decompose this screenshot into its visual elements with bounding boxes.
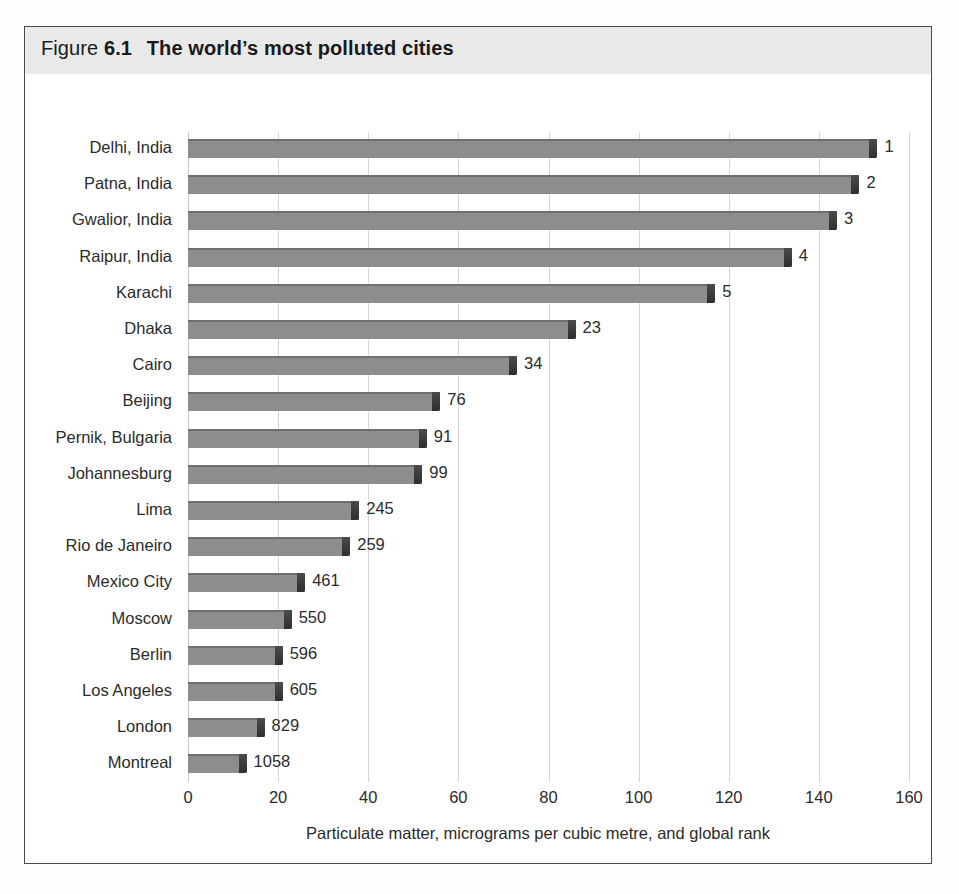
bar-rank-label: 23 — [583, 318, 601, 337]
bar-fill — [188, 682, 283, 701]
bar-rank-label: 2 — [866, 173, 875, 192]
bar[interactable] — [188, 175, 859, 194]
bar-end-cap — [432, 392, 440, 411]
bar-row: Delhi, India1 — [25, 130, 931, 166]
figure-label-word: Figure — [41, 37, 98, 59]
bar[interactable] — [188, 537, 350, 556]
category-label: Mexico City — [25, 572, 172, 591]
bar-end-cap — [419, 429, 427, 448]
x-tick-label-100: 100 — [609, 788, 669, 807]
bar[interactable] — [188, 392, 440, 411]
bar-rank-label: 1058 — [254, 752, 291, 771]
plot-area: Delhi, India1Patna, India2Gwalior, India… — [25, 74, 931, 863]
bar-rank-label: 76 — [447, 390, 465, 409]
bar-row: Johannesburg99 — [25, 456, 931, 492]
category-label: Cairo — [25, 355, 172, 374]
bar-end-cap — [851, 175, 859, 194]
bar-row: Los Angeles605 — [25, 673, 931, 709]
figure-frame: Figure 6.1 The world’s most polluted cit… — [24, 26, 932, 864]
bar[interactable] — [188, 284, 715, 303]
bar-fill — [188, 248, 792, 267]
category-label: Montreal — [25, 753, 172, 772]
bar-fill — [188, 429, 427, 448]
bar-rank-label: 99 — [429, 463, 447, 482]
bar-row: Moscow550 — [25, 601, 931, 637]
figure-number: 6.1 — [104, 37, 132, 59]
x-tick-label-140: 140 — [789, 788, 849, 807]
bar-end-cap — [275, 646, 283, 665]
bar-row: Cairo34 — [25, 347, 931, 383]
bar-fill — [188, 646, 283, 665]
bar-row: Berlin596 — [25, 637, 931, 673]
bar-row: Pernik, Bulgaria91 — [25, 420, 931, 456]
bar-end-cap — [239, 754, 247, 773]
bar-rank-label: 245 — [366, 499, 394, 518]
bar-fill — [188, 501, 359, 520]
bar[interactable] — [188, 429, 427, 448]
bar[interactable] — [188, 465, 422, 484]
bar-row: Dhaka23 — [25, 311, 931, 347]
x-axis-title: Particulate matter, micrograms per cubic… — [25, 824, 931, 843]
x-tick-label-60: 60 — [428, 788, 488, 807]
bar[interactable] — [188, 610, 292, 629]
bar-rank-label: 829 — [272, 716, 300, 735]
bar-row: London829 — [25, 709, 931, 745]
bar[interactable] — [188, 320, 576, 339]
category-label: Dhaka — [25, 319, 172, 338]
bar-fill — [188, 718, 265, 737]
bar-fill — [188, 610, 292, 629]
bar-row: Beijing76 — [25, 383, 931, 419]
bar[interactable] — [188, 718, 265, 737]
category-label: Lima — [25, 500, 172, 519]
bar[interactable] — [188, 646, 283, 665]
x-tick-label-120: 120 — [699, 788, 759, 807]
bar-row: Rio de Janeiro259 — [25, 528, 931, 564]
bar-row: Mexico City461 — [25, 564, 931, 600]
bar-end-cap — [351, 501, 359, 520]
bar[interactable] — [188, 501, 359, 520]
bar[interactable] — [188, 211, 837, 230]
bar-fill — [188, 284, 715, 303]
bar-rank-label: 5 — [722, 282, 731, 301]
bar-fill — [188, 754, 247, 773]
bar-end-cap — [275, 682, 283, 701]
bar-end-cap — [829, 211, 837, 230]
bar-rank-label: 605 — [290, 680, 318, 699]
bar-end-cap — [707, 284, 715, 303]
bar-row: Patna, India2 — [25, 166, 931, 202]
category-label: Delhi, India — [25, 138, 172, 157]
category-label: Moscow — [25, 609, 172, 628]
bar-row: Raipur, India4 — [25, 239, 931, 275]
bar-rank-label: 596 — [290, 644, 318, 663]
category-label: Karachi — [25, 283, 172, 302]
category-label: Gwalior, India — [25, 210, 172, 229]
bar-fill — [188, 537, 350, 556]
bar-row: Karachi5 — [25, 275, 931, 311]
bar[interactable] — [188, 754, 247, 773]
bar-rank-label: 34 — [524, 354, 542, 373]
bar-end-cap — [509, 356, 517, 375]
x-tick-label-80: 80 — [519, 788, 579, 807]
bar-end-cap — [342, 537, 350, 556]
bar-fill — [188, 139, 877, 158]
category-label: London — [25, 717, 172, 736]
bar-row: Lima245 — [25, 492, 931, 528]
bar-fill — [188, 175, 859, 194]
bar[interactable] — [188, 248, 792, 267]
bar-row: Montreal1058 — [25, 745, 931, 781]
category-label: Patna, India — [25, 174, 172, 193]
x-tick-label-20: 20 — [248, 788, 308, 807]
bar[interactable] — [188, 139, 877, 158]
category-label: Rio de Janeiro — [25, 536, 172, 555]
bar-end-cap — [869, 139, 877, 158]
bar-end-cap — [284, 610, 292, 629]
bar-fill — [188, 465, 422, 484]
category-label: Berlin — [25, 645, 172, 664]
bar[interactable] — [188, 682, 283, 701]
bar-row: Gwalior, India3 — [25, 202, 931, 238]
bar[interactable] — [188, 356, 517, 375]
category-label: Raipur, India — [25, 247, 172, 266]
bar-rank-label: 259 — [357, 535, 385, 554]
bar-rank-label: 91 — [434, 427, 452, 446]
bar[interactable] — [188, 573, 305, 592]
